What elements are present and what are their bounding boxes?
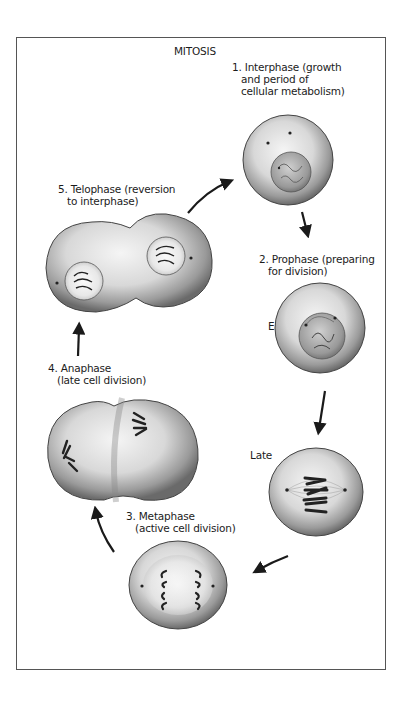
- mitosis-artwork: [0, 0, 406, 707]
- arrow-anaphase-to-telophase: [78, 328, 79, 356]
- cell-interphase: [243, 115, 333, 205]
- cell-prophase-late: [269, 448, 363, 536]
- arrow-interphase-to-prophase: [302, 212, 307, 232]
- arrow-metaphase-to-anaphase: [96, 512, 114, 552]
- arrow-early-to-late: [319, 391, 325, 429]
- cell-telophase: [46, 214, 212, 312]
- cell-prophase-early: [275, 283, 365, 373]
- cell-metaphase: [129, 541, 227, 629]
- cell-anaphase: [48, 398, 198, 502]
- arrow-late-to-metaphase: [258, 556, 288, 570]
- arrow-telophase-to-interphase: [188, 182, 228, 213]
